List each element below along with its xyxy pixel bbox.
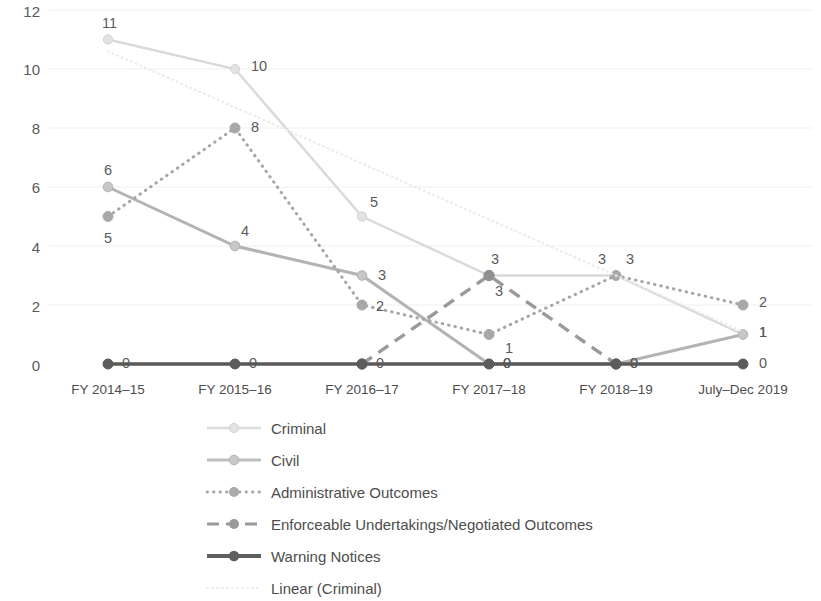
data-point-marker — [103, 359, 113, 369]
series-line-enforceable-undertakings-negotiated-outcomes — [362, 276, 616, 365]
series-layer — [103, 35, 748, 369]
data-label: 2 — [376, 299, 384, 314]
data-label: 4 — [241, 224, 249, 239]
gridlines — [49, 10, 812, 305]
legend-swatch-linear-criminal — [205, 578, 263, 598]
legend-label-warning-notices: Warning Notices — [271, 549, 380, 564]
chart-legend: Criminal Civil Administrative Outcomes — [205, 412, 821, 601]
x-tick-0: FY 2014–15 — [38, 383, 178, 397]
data-label: 3 — [378, 268, 386, 283]
legend-swatch-administrative-outcomes — [205, 482, 263, 502]
data-label: 0 — [759, 356, 767, 371]
x-tick-5: July–Dec 2019 — [673, 383, 813, 397]
x-tick-4: FY 2018–19 — [546, 383, 686, 397]
data-point-marker — [230, 359, 240, 369]
data-point-marker — [738, 359, 748, 369]
x-tick-3: FY 2017–18 — [419, 383, 559, 397]
data-point-marker — [611, 359, 621, 369]
data-label: 6 — [104, 163, 112, 178]
x-tick-2: FY 2016–17 — [292, 383, 432, 397]
legend-swatch-enforceable-undertakings — [205, 514, 263, 534]
legend-item-criminal[interactable]: Criminal — [205, 412, 821, 444]
x-tick-1: FY 2015–16 — [165, 383, 305, 397]
data-label: 0 — [249, 356, 257, 371]
data-label: 3 — [626, 252, 634, 267]
legend-item-enforceable-undertakings[interactable]: Enforceable Undertakings/Negotiated Outc… — [205, 508, 821, 540]
data-label: 0 — [503, 356, 511, 371]
legend-swatch-civil — [205, 450, 263, 470]
data-point-marker — [230, 123, 240, 133]
data-label: 11 — [102, 16, 117, 31]
data-label: 1 — [505, 341, 513, 356]
data-label: 3 — [495, 284, 503, 299]
legend-label-civil: Civil — [271, 453, 299, 468]
data-point-marker — [103, 182, 113, 192]
legend-item-civil[interactable]: Civil — [205, 444, 821, 476]
series-line-civil — [108, 187, 743, 364]
data-point-marker — [357, 212, 366, 221]
data-label: 0 — [630, 356, 638, 371]
data-label: 2 — [759, 295, 767, 310]
legend-swatch-criminal — [205, 418, 263, 438]
data-label: 3 — [491, 252, 499, 267]
data-point-marker — [484, 359, 494, 369]
data-label: 10 — [251, 59, 267, 74]
series-line-linear-criminal — [108, 51, 743, 331]
data-point-marker — [230, 241, 240, 251]
legend-item-administrative-outcomes[interactable]: Administrative Outcomes — [205, 476, 821, 508]
legend-label-criminal: Criminal — [271, 421, 326, 436]
data-point-marker — [357, 359, 367, 369]
data-label: 5 — [370, 195, 378, 210]
data-point-marker — [484, 270, 494, 280]
legend-label-enforceable-undertakings: Enforceable Undertakings/Negotiated Outc… — [271, 517, 593, 532]
data-label: 8 — [251, 120, 259, 135]
data-point-marker — [230, 64, 239, 73]
data-label: 0 — [376, 356, 384, 371]
legend-label-administrative-outcomes: Administrative Outcomes — [271, 485, 438, 500]
legend-item-warning-notices[interactable]: Warning Notices — [205, 540, 821, 572]
data-point-marker — [357, 271, 367, 281]
data-point-marker — [103, 35, 112, 44]
legend-swatch-warning-notices — [205, 546, 263, 566]
data-label: 1 — [759, 325, 767, 340]
data-label: 3 — [598, 252, 606, 267]
data-label: 0 — [122, 356, 130, 371]
data-point-marker — [738, 300, 748, 310]
data-point-marker — [103, 212, 113, 222]
data-label: 5 — [104, 231, 112, 246]
data-point-marker — [484, 330, 494, 340]
data-point-marker — [357, 300, 367, 310]
legend-item-linear-criminal[interactable]: Linear (Criminal) — [205, 572, 821, 601]
legend-label-linear-criminal: Linear (Criminal) — [271, 581, 382, 596]
